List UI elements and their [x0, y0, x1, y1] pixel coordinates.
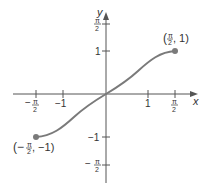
- svg-text:2: 2: [168, 39, 172, 46]
- svg-text:2: 2: [95, 25, 99, 32]
- y-tick-label-neg-pi-half: − π 2: [85, 158, 101, 173]
- point-label-right: ( π 2 , 1): [163, 31, 189, 46]
- x-tick-label-neg-pi-half: − π 2: [25, 97, 39, 113]
- y-tick-label-pi-half: π 2: [94, 17, 101, 32]
- svg-text:2: 2: [95, 166, 99, 173]
- y-tick-label-neg-one: −1: [88, 132, 100, 143]
- y-tick-label-one: 1: [95, 46, 101, 57]
- svg-text:π: π: [33, 98, 38, 105]
- svg-text:, 1): , 1): [173, 32, 189, 44]
- svg-text:π: π: [95, 158, 100, 165]
- x-tick-label-pi-half: π 2: [171, 98, 178, 113]
- svg-text:−: −: [25, 97, 31, 108]
- svg-text:π: π: [95, 17, 100, 24]
- svg-text:, −1): , −1): [32, 141, 54, 153]
- svg-text:2: 2: [27, 148, 31, 155]
- svg-text:(: (: [163, 31, 167, 45]
- svg-text:(−: (−: [13, 140, 24, 154]
- x-tick-label-neg-one: −1: [55, 98, 67, 109]
- point-label-left: (− π 2 , −1): [13, 140, 54, 155]
- endpoint-left: [33, 134, 39, 140]
- y-axis-arrow-icon: [103, 12, 109, 20]
- x-tick-label-one: 1: [145, 98, 151, 109]
- svg-text:2: 2: [172, 106, 176, 113]
- svg-text:π: π: [172, 98, 177, 105]
- svg-text:2: 2: [33, 106, 37, 113]
- endpoint-right: [172, 48, 178, 54]
- x-axis-label: x: [192, 95, 199, 107]
- svg-text:−: −: [85, 158, 91, 169]
- sine-graph: x y − π 2 −1 1 π 2 π 2 1 −1 − π 2 ( π 2 …: [0, 0, 211, 193]
